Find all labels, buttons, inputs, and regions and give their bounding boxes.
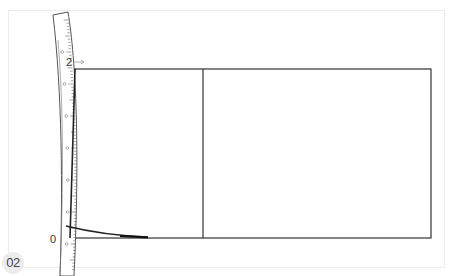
bottom-mark-label: 0 (50, 233, 56, 245)
step-badge: 02 (2, 252, 24, 274)
top-mark-label: 2 (66, 56, 72, 68)
diagram-svg: 2 0 (0, 0, 455, 276)
tape-curve (66, 226, 148, 237)
figure-canvas: 2 0 02 (0, 0, 455, 276)
outer-rectangle (64, 69, 431, 238)
